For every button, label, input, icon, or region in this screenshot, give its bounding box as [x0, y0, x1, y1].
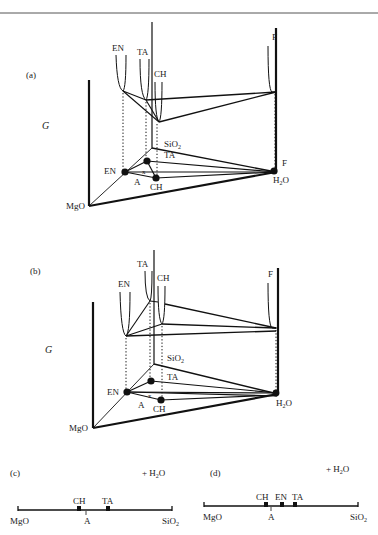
ta-curve — [140, 59, 149, 100]
panel-d-label: (d) — [210, 468, 221, 478]
tie-en-ta — [127, 381, 151, 392]
f-curve — [268, 283, 278, 328]
ch-curve-label: CH — [154, 69, 167, 79]
tangent-en-f — [126, 331, 276, 336]
mgo-label: MgO — [66, 201, 86, 211]
en-label: EN — [275, 492, 287, 502]
ta-marker — [293, 502, 297, 507]
ch-point-label: CH — [150, 182, 163, 192]
a-label: A — [84, 516, 91, 526]
tangent-en-ch — [126, 324, 162, 336]
sio2-label: SiO2 — [167, 353, 184, 364]
ch-point — [152, 174, 159, 181]
f-curve-label: F — [268, 269, 273, 279]
ta-point — [147, 377, 154, 384]
tie-en-ch — [125, 172, 156, 178]
en-point — [121, 168, 128, 175]
a-point-label: A — [134, 177, 141, 187]
h2o-label: H2O — [276, 398, 293, 409]
tie-ta-h2o — [151, 381, 277, 393]
panel-a-g-axis-label: G — [42, 120, 49, 131]
mgo-label: MgO — [69, 423, 89, 433]
ta-curve-label: TA — [137, 47, 149, 57]
panel-b-g-axis-label: G — [45, 344, 52, 355]
ch-marker — [264, 502, 268, 507]
ch-point — [157, 396, 164, 403]
en-point-label: EN — [107, 387, 119, 397]
en-curve-label: EN — [118, 279, 130, 289]
panel-a-label: (a) — [26, 70, 36, 80]
mgo-label: MgO — [10, 516, 30, 526]
en-point — [123, 388, 130, 395]
tangent-ta-ch — [150, 301, 158, 302]
en-point-label: EN — [104, 166, 116, 176]
a-marker: x — [142, 168, 146, 176]
a-point-label: A — [138, 400, 145, 410]
panel-b: (b) G EN TA CH F — [30, 250, 293, 433]
ch-label: CH — [73, 496, 86, 506]
a-marker: x — [148, 392, 152, 400]
diagram-canvas: (a) G EN TA CH F — [0, 0, 378, 535]
tangent-ch-f — [159, 92, 276, 122]
panel-c-water-label: + H2O — [142, 468, 166, 479]
tangent-ta-f — [146, 92, 276, 100]
f-point — [270, 167, 277, 174]
ta-point-label: TA — [167, 372, 179, 382]
h2o-point — [273, 390, 280, 397]
f-curve-label: F — [272, 32, 277, 42]
sio2-label: SiO2 — [164, 139, 181, 150]
ch-label: CH — [256, 492, 269, 502]
en-curve-label: EN — [112, 43, 124, 53]
tie-ta-h2o — [147, 161, 275, 172]
panel-c-label: (c) — [10, 468, 20, 478]
ta-curve — [145, 271, 152, 301]
tangent-en-ch — [123, 91, 159, 122]
en-curve — [120, 292, 130, 336]
ch-point-label: CH — [153, 404, 166, 414]
panel-b-label: (b) — [30, 266, 41, 276]
ta-point — [143, 157, 150, 164]
panel-c: (c) + H2O CH TA A MgO SiO2 — [10, 468, 179, 527]
ch-curve-label: CH — [157, 273, 170, 283]
ta-marker — [106, 506, 110, 511]
sio2-label: SiO2 — [350, 512, 367, 523]
panel-d: (d) + H2O CH EN TA A MgO SiO2 — [203, 464, 367, 523]
en-curve — [116, 55, 126, 91]
ta-label: TA — [292, 492, 304, 502]
ta-label: TA — [102, 496, 114, 506]
f-point-label: F — [282, 158, 287, 168]
h2o-label: H2O — [273, 175, 290, 186]
sio2-label: SiO2 — [162, 516, 179, 527]
panel-d-water-label: + H2O — [326, 464, 350, 475]
mgo-label: MgO — [203, 512, 223, 522]
panel-a: (a) G EN TA CH F — [26, 22, 290, 211]
ch-marker — [77, 506, 81, 511]
en-marker — [280, 502, 284, 507]
ta-curve-label: TA — [137, 259, 149, 269]
ch-curve — [158, 286, 165, 324]
a-label: A — [268, 512, 275, 522]
f-curve — [268, 46, 276, 92]
ta-point-label: TA — [164, 150, 176, 160]
